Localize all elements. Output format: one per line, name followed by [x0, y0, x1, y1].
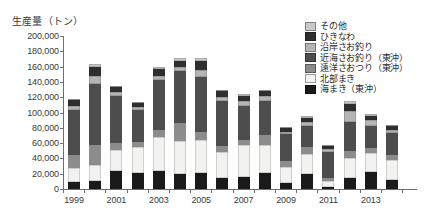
x-axis-tick-mark — [296, 189, 297, 193]
legend-item: 海まき（東沖） — [305, 84, 408, 95]
bar-segment — [153, 130, 165, 137]
y-axis-tick-mark — [60, 67, 63, 68]
bar-segment — [110, 96, 122, 143]
bar-segment — [174, 71, 186, 123]
legend-swatch — [305, 74, 316, 83]
bar-segment — [153, 137, 165, 171]
y-axis-tick-mark — [60, 36, 63, 37]
bar-segment — [280, 167, 292, 183]
x-axis-line — [63, 189, 417, 190]
x-axis-tick-mark — [275, 189, 276, 193]
legend-swatch — [305, 85, 316, 94]
legend-label: 沿岸さお釣り — [320, 42, 373, 52]
x-axis-tick-mark — [190, 189, 191, 193]
y-axis-title: 生産量（トン） — [12, 13, 83, 28]
y-axis-tick-mark — [60, 174, 63, 175]
bar-segment — [153, 80, 165, 130]
bar-segment — [153, 171, 165, 189]
x-axis-tick-mark — [381, 189, 382, 193]
bar-segment — [386, 160, 398, 180]
y-axis-tick-label: 160,000 — [0, 62, 59, 72]
bar-segment — [301, 174, 313, 189]
legend-item: その他 — [305, 21, 408, 32]
bar-segment — [216, 178, 228, 189]
bar-segment — [110, 143, 122, 150]
x-axis-tick-mark — [402, 189, 403, 193]
x-axis-tick-mark — [63, 189, 64, 193]
x-axis-tick-label: 2011 — [319, 195, 338, 205]
bar-segment — [365, 153, 377, 172]
bar-segment — [174, 123, 186, 141]
bar-segment — [238, 106, 250, 140]
legend-label: 遠洋さおつり（東沖） — [320, 63, 408, 73]
bar-2014 — [386, 125, 398, 189]
bar-segment — [259, 145, 271, 173]
bar-2007 — [238, 94, 250, 189]
y-axis-tick-mark — [60, 128, 63, 129]
bar-2004 — [174, 58, 186, 189]
bar-2006 — [216, 90, 228, 189]
bar-segment — [344, 104, 356, 111]
y-axis-tick-label: 40,000 — [0, 153, 59, 163]
bar-segment — [365, 172, 377, 189]
x-axis-tick-mark — [211, 189, 212, 193]
bar-segment — [195, 61, 207, 70]
x-axis-tick-mark — [360, 189, 361, 193]
bar-segment — [216, 152, 228, 178]
bar-segment — [153, 69, 165, 76]
x-axis-tick-mark — [339, 189, 340, 193]
y-axis-tick-mark — [60, 82, 63, 83]
bar-segment — [344, 151, 356, 158]
legend-item: 沿岸さお釣り — [305, 42, 408, 53]
legend-item: 北部まき — [305, 74, 408, 85]
legend-swatch — [305, 22, 316, 31]
legend-item: ひきなわ — [305, 32, 408, 43]
bar-segment — [132, 147, 144, 173]
bar-segment — [68, 182, 80, 189]
legend-label: その他 — [320, 21, 346, 31]
y-axis-tick-mark — [60, 158, 63, 159]
bar-segment — [195, 140, 207, 173]
chart-legend: その他ひきなわ沿岸さお釣り近海さお釣り（東沖）遠洋さおつり（東沖）北部まき海まき… — [305, 21, 408, 95]
bar-segment — [386, 180, 398, 189]
bar-segment — [68, 110, 80, 154]
bar-segment — [89, 76, 101, 84]
bar-segment — [195, 70, 207, 77]
x-axis-tick-mark — [84, 189, 85, 193]
x-axis-tick-mark — [105, 189, 106, 193]
legend-swatch — [305, 53, 316, 62]
legend-label: ひきなわ — [320, 32, 355, 42]
bar-segment — [238, 177, 250, 189]
legend-label: 海まき（東沖） — [320, 84, 382, 94]
x-axis-tick-label: 2007 — [234, 195, 254, 205]
bar-segment — [68, 155, 80, 168]
bar-segment — [195, 132, 207, 140]
legend-swatch — [305, 32, 316, 41]
legend-label: 近海さお釣り（東沖） — [320, 53, 408, 63]
bar-segment — [89, 181, 101, 189]
bar-segment — [216, 101, 228, 146]
bar-segment — [259, 101, 271, 135]
bar-segment — [174, 174, 186, 189]
bar-2012 — [344, 101, 356, 189]
y-axis-tick-label: 80,000 — [0, 123, 59, 133]
bar-segment — [322, 152, 334, 178]
y-axis-tick-mark — [60, 51, 63, 52]
x-axis-tick-label: 1999 — [64, 195, 84, 205]
bar-segment — [301, 154, 313, 174]
x-axis-tick-mark — [317, 189, 318, 193]
bar-segment — [89, 145, 101, 165]
bar-segment — [259, 135, 271, 145]
y-axis-tick-label: 0 — [0, 184, 59, 194]
y-axis-tick-label: 20,000 — [0, 169, 59, 179]
x-axis-tick-mark — [254, 189, 255, 193]
bar-segment — [89, 165, 101, 181]
legend-item: 近海さお釣り（東沖） — [305, 53, 408, 64]
bar-segment — [195, 173, 207, 189]
x-axis-tick-label: 2005 — [191, 195, 211, 205]
bar-segment — [174, 141, 186, 174]
bar-segment — [132, 110, 144, 141]
x-axis-tick-label: 2001 — [107, 195, 127, 205]
y-axis-tick-mark — [60, 97, 63, 98]
legend-swatch — [305, 43, 316, 52]
